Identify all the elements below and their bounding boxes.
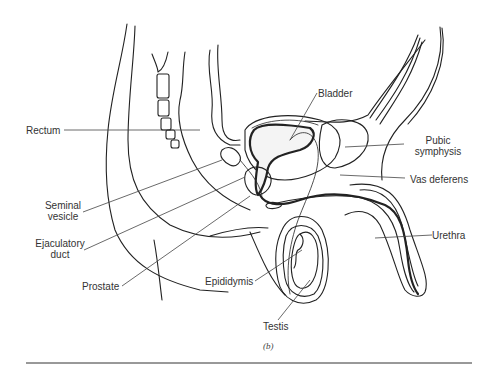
label-prostate: Prostate [82, 281, 119, 292]
bladder-lumen [250, 125, 314, 196]
label-rectum: Rectum [26, 125, 60, 136]
label-ejaculatory-duct-line2: duct [34, 249, 86, 260]
label-epididymis: Epididymis [205, 276, 253, 287]
label-pubic-symphysis-line1: Pubic [408, 135, 468, 146]
label-pubic-symphysis-line2: symphysis [408, 146, 468, 157]
figure-caption: (b) [263, 341, 274, 351]
seminal-vesicle [221, 148, 241, 166]
label-testis: Testis [263, 321, 289, 332]
label-seminal-vesicle-line1: Seminal [40, 200, 86, 211]
label-ejaculatory-duct-line1: Ejaculatory [34, 238, 86, 249]
label-vas-deferens: Vas deferens [410, 174, 468, 185]
testis [291, 232, 318, 288]
sacrum-icon [152, 52, 179, 148]
anatomy-diagram [0, 0, 491, 376]
label-seminal-vesicle-line2: vesicle [40, 211, 86, 222]
label-bladder: Bladder [318, 88, 352, 99]
label-urethra: Urethra [432, 230, 465, 241]
body-outline-back [106, 24, 228, 292]
pubic-symphysis [319, 120, 368, 168]
